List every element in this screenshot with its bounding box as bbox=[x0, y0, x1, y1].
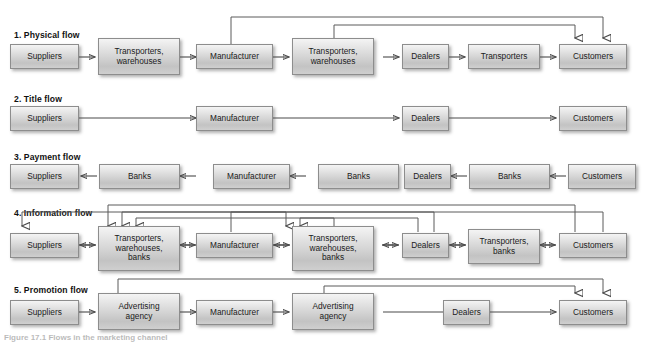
node-dealers-r1[interactable]: Dealers bbox=[402, 44, 449, 69]
node-customers-r5[interactable]: Customers bbox=[559, 300, 627, 325]
node-suppliers-r1[interactable]: Suppliers bbox=[10, 44, 79, 69]
node-transporters-banks-r4[interactable]: Transporters, banks bbox=[468, 229, 540, 264]
node-dealers-r4[interactable]: Dealers bbox=[402, 233, 449, 258]
node-advertising-agency-1-r5[interactable]: Advertising agency bbox=[98, 293, 180, 330]
node-transporters-warehouses-banks-2-r4[interactable]: Transporters, warehouses, banks bbox=[292, 226, 374, 271]
node-customers-r2[interactable]: Customers bbox=[559, 106, 627, 131]
node-customers-r1[interactable]: Customers bbox=[559, 44, 627, 69]
node-suppliers-r4[interactable]: Suppliers bbox=[10, 233, 79, 258]
node-advertising-agency-2-r5[interactable]: Advertising agency bbox=[292, 293, 374, 330]
node-suppliers-r5[interactable]: Suppliers bbox=[10, 300, 79, 325]
node-manufacturer-r5[interactable]: Manufacturer bbox=[196, 300, 273, 325]
node-dealers-r5[interactable]: Dealers bbox=[443, 300, 490, 325]
node-banks-3-r3[interactable]: Banks bbox=[469, 164, 550, 189]
node-manufacturer-r2[interactable]: Manufacturer bbox=[196, 106, 273, 131]
node-suppliers-r2[interactable]: Suppliers bbox=[10, 106, 79, 131]
node-manufacturer-r1[interactable]: Manufacturer bbox=[196, 44, 273, 69]
channel-flows-figure: 1. Physical flow 2. Title flow 3. Paymen… bbox=[0, 0, 648, 343]
node-manufacturer-r4[interactable]: Manufacturer bbox=[196, 233, 273, 258]
node-transporters-warehouses-r1[interactable]: Transporters, warehouses bbox=[98, 38, 180, 75]
row-title-information-flow: 4. Information flow bbox=[14, 208, 92, 218]
node-transporters-r1[interactable]: Transporters bbox=[468, 44, 540, 69]
node-customers-r3[interactable]: Customers bbox=[568, 164, 636, 189]
row-title-physical-flow: 1. Physical flow bbox=[14, 30, 80, 40]
row-title-payment-flow: 3. Payment flow bbox=[14, 152, 80, 162]
node-transporters-warehouses-banks-r4[interactable]: Transporters, warehouses, banks bbox=[98, 226, 180, 271]
figure-caption: Figure 17.1 Flows in the marketing chann… bbox=[4, 333, 168, 342]
node-manufacturer-r3[interactable]: Manufacturer bbox=[213, 164, 290, 189]
node-banks-1-r3[interactable]: Banks bbox=[99, 164, 180, 189]
row-title-title-flow: 2. Title flow bbox=[14, 94, 62, 104]
node-dealers-r3[interactable]: Dealers bbox=[404, 164, 451, 189]
node-customers-r4[interactable]: Customers bbox=[559, 233, 627, 258]
node-transporters-warehouses-2-r1[interactable]: Transporters, warehouses bbox=[292, 38, 374, 75]
node-suppliers-r3[interactable]: Suppliers bbox=[10, 164, 79, 189]
node-banks-2-r3[interactable]: Banks bbox=[318, 164, 399, 189]
row-title-promotion-flow: 5. Promotion flow bbox=[14, 285, 88, 295]
node-dealers-r2[interactable]: Dealers bbox=[402, 106, 449, 131]
